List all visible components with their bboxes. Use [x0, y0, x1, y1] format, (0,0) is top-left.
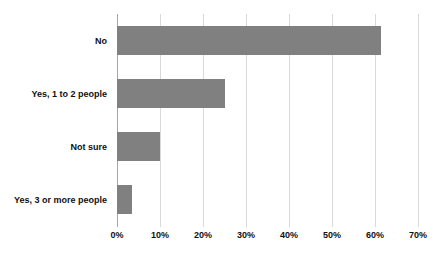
bar-row [117, 67, 225, 120]
bar-chart: No Yes, 1 to 2 people Not sure Yes, 3 or… [0, 0, 438, 258]
category-axis-labels: No Yes, 1 to 2 people Not sure Yes, 3 or… [0, 14, 112, 227]
category-label-no: No [0, 14, 112, 67]
bar-no[interactable] [117, 26, 381, 55]
category-label-not-sure: Not sure [0, 120, 112, 173]
xtick-0: 0% [110, 230, 123, 240]
gridline-70 [418, 14, 419, 227]
xtick-70: 70% [409, 230, 427, 240]
bar-row [117, 173, 132, 226]
bar-row [117, 14, 381, 67]
xtick-60: 60% [366, 230, 384, 240]
category-label-yes-3-or-more-people: Yes, 3 or more people [0, 173, 112, 226]
bars-layer [117, 14, 418, 227]
xtick-40: 40% [280, 230, 298, 240]
xtick-20: 20% [194, 230, 212, 240]
bar-not-sure[interactable] [117, 132, 160, 161]
bar-yes-3-or-more-people[interactable] [117, 185, 132, 214]
xtick-30: 30% [237, 230, 255, 240]
value-axis-labels: 0% 10% 20% 30% 40% 50% 60% 70% [0, 230, 438, 248]
bar-yes-1-to-2-people[interactable] [117, 79, 225, 108]
category-label-yes-1-to-2-people: Yes, 1 to 2 people [0, 67, 112, 120]
xtick-10: 10% [151, 230, 169, 240]
plot-area [117, 14, 418, 227]
bar-row [117, 120, 160, 173]
xtick-50: 50% [323, 230, 341, 240]
